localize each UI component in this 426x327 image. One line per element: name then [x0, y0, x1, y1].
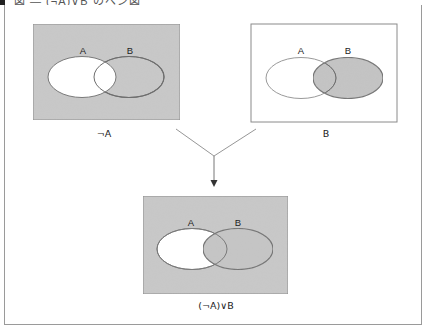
venn-diagram-figure: A B ¬A A B B A B (¬A)∨B: [0, 0, 426, 327]
caption-not-a-or-b: (¬A)∨B: [198, 300, 233, 311]
set-b-label: B: [235, 217, 241, 228]
set-b-label: B: [127, 45, 133, 56]
set-b-label: B: [345, 45, 351, 56]
diagram-not-a-or-b: A B (¬A)∨B: [143, 196, 288, 311]
arrow-down-icon: [211, 180, 218, 187]
set-a-label: A: [188, 217, 195, 228]
set-b-ellipse-shaded: [203, 229, 273, 270]
set-a-label: A: [298, 45, 305, 56]
connector-line-left: [176, 129, 214, 156]
caption-b: B: [323, 128, 330, 139]
connector-line-right: [214, 129, 256, 156]
diagram-b: A B B: [251, 24, 397, 139]
merge-connector: [176, 129, 256, 187]
set-a-label: A: [80, 45, 87, 56]
caption-not-a: ¬A: [97, 128, 112, 139]
set-b-ellipse-shaded: [313, 58, 383, 99]
diagram-not-a: A B ¬A: [33, 24, 180, 139]
set-a-ellipse: [48, 57, 116, 98]
